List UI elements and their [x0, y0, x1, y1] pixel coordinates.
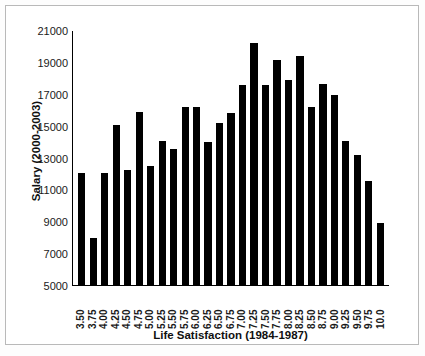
- bar[interactable]: [365, 181, 372, 285]
- bar[interactable]: [147, 166, 154, 285]
- bar[interactable]: [262, 85, 269, 285]
- x-tick-slot: 7.25: [248, 289, 260, 329]
- chart-figure: Salary (2000-2003) 500070009000110001300…: [0, 0, 425, 356]
- x-tick-slot: 5.00: [144, 289, 156, 329]
- x-tick-label: 7.50: [260, 289, 271, 329]
- y-tick-label: 9000: [44, 216, 68, 228]
- x-tick-label: 6.50: [213, 289, 224, 329]
- bar[interactable]: [319, 84, 326, 285]
- y-tick-label: 17000: [37, 89, 68, 101]
- x-tick-slot: 9.00: [328, 289, 340, 329]
- bar-slot: [352, 31, 363, 285]
- bar[interactable]: [124, 170, 131, 285]
- x-tick-slot: 7.00: [236, 289, 248, 329]
- x-tick-label: 7.25: [248, 289, 259, 329]
- x-tick-slot: 3.50: [75, 289, 87, 329]
- bar-slot: [363, 31, 374, 285]
- x-tick-label: 9.50: [352, 289, 363, 329]
- bar[interactable]: [159, 141, 166, 285]
- x-tick-label: 9.00: [329, 289, 340, 329]
- x-axis-title: Life Satisfaction (1984-1987): [72, 329, 389, 341]
- x-tick-slot: 5.75: [179, 289, 191, 329]
- bar-slot: [133, 31, 144, 285]
- x-tick-slot: 4.00: [98, 289, 110, 329]
- bar-slot: [179, 31, 190, 285]
- x-tick-slot: 8.50: [305, 289, 317, 329]
- bar[interactable]: [227, 113, 234, 285]
- x-tick-slot: 5.25: [156, 289, 168, 329]
- x-tick-slot: 6.75: [225, 289, 237, 329]
- bar[interactable]: [193, 107, 200, 285]
- x-tick-label: 4.25: [110, 289, 121, 329]
- bar-slot: [375, 31, 386, 285]
- bar[interactable]: [285, 80, 292, 285]
- bar-slot: [317, 31, 328, 285]
- x-tick-slot: 9.25: [340, 289, 352, 329]
- bar[interactable]: [204, 142, 211, 285]
- x-tick-slot: 9.75: [363, 289, 375, 329]
- bar[interactable]: [342, 141, 349, 285]
- bar[interactable]: [377, 223, 384, 285]
- bar[interactable]: [216, 123, 223, 285]
- bar-slot: [283, 31, 294, 285]
- x-tick-slot: 5.50: [167, 289, 179, 329]
- x-tick-label: 6.75: [225, 289, 236, 329]
- x-tick-slot: 3.75: [87, 289, 99, 329]
- bar-slot: [306, 31, 317, 285]
- x-tick-slot: 7.75: [271, 289, 283, 329]
- x-tick-label: 10.0: [375, 289, 386, 329]
- x-tick-slot: 8.00: [282, 289, 294, 329]
- bar-slot: [294, 31, 305, 285]
- y-tick-label: 7000: [44, 248, 68, 260]
- bar-slot: [248, 31, 259, 285]
- x-tick-slot: 4.50: [121, 289, 133, 329]
- x-tick-label: 5.00: [144, 289, 155, 329]
- bar[interactable]: [182, 107, 189, 286]
- x-tick-label: 6.25: [202, 289, 213, 329]
- bar-slot: [110, 31, 121, 285]
- y-tick-label: 15000: [37, 121, 68, 133]
- bar[interactable]: [136, 112, 143, 285]
- bar[interactable]: [296, 56, 303, 286]
- x-tick-slot: 8.75: [317, 289, 329, 329]
- x-axis-tick-labels: 3.503.754.004.254.504.755.005.255.505.75…: [72, 289, 389, 329]
- bar-slot: [237, 31, 248, 285]
- x-tick-label: 7.75: [271, 289, 282, 329]
- x-tick-label: 7.00: [236, 289, 247, 329]
- x-tick-label: 4.75: [133, 289, 144, 329]
- y-axis-tick-labels: 5000700090001100013000150001700019000210…: [26, 31, 68, 286]
- x-tick-label: 8.00: [283, 289, 294, 329]
- x-tick-slot: 8.25: [294, 289, 306, 329]
- bar[interactable]: [170, 149, 177, 285]
- y-tick-label: 11000: [38, 184, 68, 196]
- bar-slot: [145, 31, 156, 285]
- bar[interactable]: [354, 155, 361, 285]
- bar[interactable]: [78, 173, 85, 285]
- x-tick-label: 8.50: [306, 289, 317, 329]
- bar[interactable]: [90, 238, 97, 285]
- x-tick-slot: 10.0: [374, 289, 386, 329]
- x-tick-slot: 4.75: [133, 289, 145, 329]
- x-tick-slot: 4.25: [110, 289, 122, 329]
- bar-slot: [156, 31, 167, 285]
- x-tick-label: 9.75: [363, 289, 374, 329]
- y-tick-label: 13000: [37, 153, 68, 165]
- x-tick-label: 3.50: [75, 289, 86, 329]
- bar[interactable]: [273, 60, 280, 285]
- x-tick-slot: 7.50: [259, 289, 271, 329]
- bar-slot: [260, 31, 271, 285]
- x-tick-label: 5.50: [167, 289, 178, 329]
- plot-area: [72, 31, 389, 286]
- bar[interactable]: [101, 173, 108, 285]
- bar[interactable]: [308, 107, 315, 285]
- bar[interactable]: [331, 95, 338, 285]
- bar-slot: [76, 31, 87, 285]
- bar[interactable]: [239, 85, 246, 285]
- bar-slot: [87, 31, 98, 285]
- x-tick-label: 9.25: [340, 289, 351, 329]
- x-tick-slot: 6.50: [213, 289, 225, 329]
- bar[interactable]: [250, 43, 257, 285]
- bar-slot: [202, 31, 213, 285]
- bar-slot: [191, 31, 202, 285]
- bar[interactable]: [113, 125, 120, 285]
